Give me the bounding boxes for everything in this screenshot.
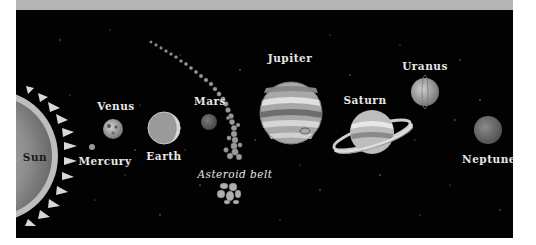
jupiter xyxy=(260,82,322,144)
label-mercury: Mercury xyxy=(79,156,132,167)
label-earth: Earth xyxy=(146,151,181,162)
top-band xyxy=(16,0,513,10)
asteroid-cluster xyxy=(217,183,241,204)
label-neptune: Neptune xyxy=(462,154,513,165)
label-sun: Sun xyxy=(23,152,47,163)
mars xyxy=(201,114,217,130)
label-uranus: Uranus xyxy=(402,61,448,72)
uranus xyxy=(411,75,439,109)
label-saturn: Saturn xyxy=(343,95,386,106)
label-mars: Mars xyxy=(194,96,226,107)
earth xyxy=(148,112,180,144)
label-jupiter: Jupiter xyxy=(268,53,313,64)
neptune xyxy=(474,116,502,144)
solar-system-illustration: Sun Mercury Venus Earth Mars Asteroid be… xyxy=(16,10,513,238)
venus xyxy=(103,119,123,139)
mercury xyxy=(89,144,95,150)
saturn xyxy=(331,110,413,156)
label-asteroid-belt: Asteroid belt xyxy=(197,169,272,180)
label-venus: Venus xyxy=(97,101,135,112)
